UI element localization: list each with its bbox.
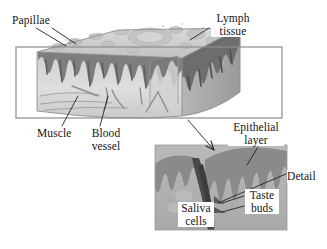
label-lymph-tissue-line2: tissue: [211, 25, 255, 38]
tongue-tissue-block: [37, 23, 240, 118]
label-blood-vessel-line1: Blood: [86, 127, 126, 140]
label-papillae: Papillae: [12, 14, 50, 27]
label-detail: Detail: [287, 170, 316, 183]
label-muscle: Muscle: [37, 127, 71, 140]
label-taste-buds-line1: Taste: [245, 189, 279, 202]
figure-canvas: Papillae Lymph tissue Muscle Blood vesse…: [0, 0, 327, 249]
leader-papillae: [36, 28, 66, 46]
label-blood-vessel: Blood vessel: [86, 127, 126, 152]
label-epithelial-layer-line1: Epithelial: [228, 121, 284, 134]
label-saliva-cells-line1: Saliva: [178, 202, 214, 215]
label-lymph-tissue-line1: Lymph: [211, 12, 255, 25]
label-epithelial-layer-line2: layer: [228, 134, 284, 147]
label-epithelial-layer: Epithelial layer: [228, 121, 284, 146]
label-blood-vessel-line2: vessel: [86, 140, 126, 153]
cut-wedge: [150, 56, 178, 109]
label-lymph-tissue: Lymph tissue: [211, 12, 255, 37]
label-taste-buds: Taste buds: [245, 189, 279, 214]
label-taste-buds-line2: buds: [245, 202, 279, 215]
label-saliva-cells-line2: cells: [178, 215, 214, 228]
label-saliva-cells: Saliva cells: [178, 202, 214, 227]
leader-papillae-2: [52, 28, 76, 44]
